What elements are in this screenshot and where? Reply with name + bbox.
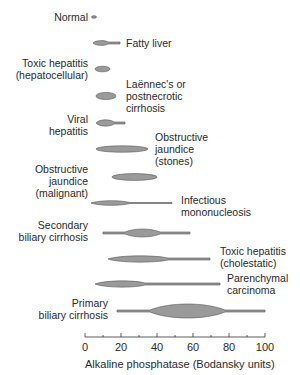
label-secondary-biliary: Secondarybiliary cirrhosis — [19, 219, 88, 243]
label-parenchymal: Parenchymalcarcinoma — [227, 272, 288, 296]
shape-fatty-liver — [93, 41, 120, 46]
shape-toxic-hepatocellular — [95, 66, 110, 72]
x-axis — [85, 333, 265, 337]
label-laennec: Laënnec's orpostnecroticcirrhosis — [126, 78, 186, 114]
label-toxic-cholestatic: Toxic hepatitis(cholestatic) — [220, 245, 286, 269]
label-mononucleosis: Infectiousmononucleosis — [181, 194, 251, 218]
x-tick-label: 20 — [115, 341, 127, 353]
shape-viral-hepatitis — [96, 120, 125, 126]
shape-mononucleosis — [91, 201, 172, 206]
shape-secondary-biliary — [103, 229, 190, 237]
x-tick-label: 60 — [187, 341, 199, 353]
shape-primary-biliary — [117, 304, 265, 318]
shape-laennec — [96, 92, 116, 99]
x-tick-label: 0 — [82, 341, 88, 353]
shape-toxic-cholestatic — [108, 256, 210, 262]
label-fatty-liver: Fatty liver — [126, 37, 172, 49]
label-toxic-hepatocellular: Toxic hepatitis(hepatocellular) — [16, 57, 88, 81]
shape-parenchymal — [95, 281, 220, 287]
shape-normal — [92, 16, 97, 19]
label-viral-hepatitis: Viralhepatitis — [49, 113, 88, 137]
x-tick-label: 40 — [151, 341, 163, 353]
x-tick-label: 80 — [223, 341, 235, 353]
label-obstructive-stones: Obstructivejaundice(stones) — [155, 131, 208, 167]
shape-obstructive-malignant — [112, 174, 157, 181]
label-normal: Normal — [54, 11, 88, 23]
label-obstructive-malignant: Obstructivejaundice(malignant) — [35, 163, 88, 199]
x-tick-label: 100 — [256, 341, 274, 353]
shape-obstructive-stones — [96, 146, 148, 152]
x-axis-title: Alkaline phosphatase (Bodansky units) — [85, 358, 275, 370]
label-primary-biliary: Primarybiliary cirrhosis — [39, 297, 108, 321]
